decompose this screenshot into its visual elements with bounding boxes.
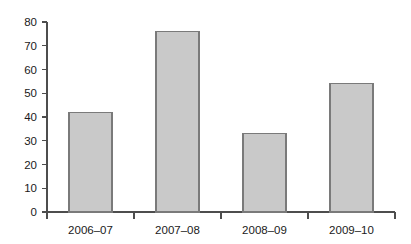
bar-series bbox=[69, 32, 373, 213]
y-tick-label: 60 bbox=[24, 64, 37, 76]
bar bbox=[243, 134, 286, 212]
x-axis-ticks bbox=[47, 212, 395, 219]
x-axis-labels: 2006–072007–082008–092009–10 bbox=[68, 224, 374, 236]
bar-chart: 010203040506070802006–072007–082008–0920… bbox=[0, 0, 411, 244]
y-tick-label: 0 bbox=[31, 206, 37, 218]
y-tick-label: 30 bbox=[24, 135, 37, 147]
bar bbox=[330, 84, 373, 212]
y-tick-label: 40 bbox=[24, 111, 37, 123]
y-tick-label: 50 bbox=[24, 87, 37, 99]
x-tick-label: 2007–08 bbox=[155, 224, 200, 236]
y-tick-label: 10 bbox=[24, 182, 37, 194]
y-tick-label: 20 bbox=[24, 159, 37, 171]
y-tick-label: 80 bbox=[24, 16, 37, 28]
bar bbox=[156, 32, 199, 213]
x-tick-label: 2006–07 bbox=[68, 224, 113, 236]
x-tick-label: 2009–10 bbox=[329, 224, 374, 236]
chart-canvas: 010203040506070802006–072007–082008–0920… bbox=[0, 0, 411, 244]
x-tick-label: 2008–09 bbox=[242, 224, 287, 236]
bar bbox=[69, 112, 112, 212]
y-tick-label: 70 bbox=[24, 40, 37, 52]
y-axis-ticks: 01020304050607080 bbox=[24, 16, 47, 218]
